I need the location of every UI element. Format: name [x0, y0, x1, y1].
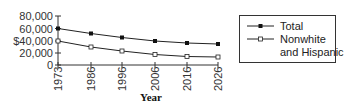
xtick-1996: 1996	[116, 67, 128, 91]
legend-total-marker	[259, 24, 263, 28]
nw-marker-1996	[120, 49, 124, 53]
nw-marker-1973	[56, 39, 60, 43]
total-marker-1996	[120, 36, 124, 40]
nw-marker-2016	[185, 55, 189, 59]
total-marker-1973	[56, 27, 60, 31]
total-marker-1986	[89, 32, 93, 36]
series-total	[56, 27, 220, 47]
x-tick-labels: 1973 1986 1996 2006 2016 2026	[52, 67, 224, 91]
legend-total-label: Total	[280, 20, 303, 32]
xtick-2026: 2026	[212, 67, 224, 91]
ytick-80000: 80,000	[19, 10, 53, 22]
total-marker-2006	[153, 39, 157, 43]
x-axis-label: Year	[140, 91, 162, 103]
line-chart: 80,000 60,000 $40,000 20,000 0 1973 1986…	[0, 0, 355, 106]
legend-nw-label-line1: Nonwhite	[280, 33, 326, 45]
total-marker-2026	[216, 42, 220, 46]
ytick-60000: 60,000	[19, 23, 53, 35]
ytick-20000: 20,000	[19, 47, 53, 59]
nw-marker-1986	[89, 45, 93, 49]
xtick-2006: 2006	[149, 67, 161, 91]
nw-marker-2006	[153, 53, 157, 57]
xtick-2016: 2016	[181, 67, 193, 91]
xtick-1973: 1973	[52, 67, 64, 91]
xtick-1986: 1986	[85, 67, 97, 91]
legend: Total Nonwhite and Hispanic	[240, 16, 345, 63]
legend-nw-marker	[259, 37, 263, 41]
nw-marker-2026	[216, 55, 220, 59]
y-tick-labels: 80,000 60,000 $40,000 20,000 0	[13, 10, 53, 71]
legend-nw-label-line2: and Hispanic	[280, 46, 344, 58]
series-nonwhite-hispanic	[56, 39, 220, 59]
total-marker-2016	[185, 41, 189, 45]
ytick-40000: $40,000	[13, 35, 53, 47]
